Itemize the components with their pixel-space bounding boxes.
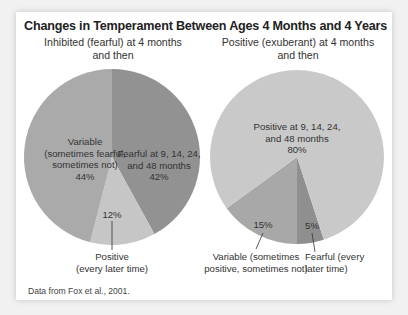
right-positive-label: Positive at 9, 14, 24, and 48 months 80% [247, 121, 347, 156]
right-variable-pct: 15% [248, 219, 278, 231]
right-variable-line2: positive, sometimes not) [196, 263, 316, 275]
right-variable-label: Variable (sometimes positive, sometimes … [196, 251, 316, 274]
source-note: Data from Fox et al., 2001. [28, 286, 130, 296]
left-fearful-label: Fearful at 9, 14, 24, and 48 months 42% [114, 148, 204, 183]
left-positive-pct: 12% [92, 209, 132, 221]
right-pie [210, 70, 384, 244]
left-fearful-line1: Fearful at 9, 14, 24, [114, 148, 204, 160]
right-fearful-pct: 5% [300, 220, 324, 232]
left-fearful-line2: and 48 months [114, 160, 204, 172]
right-fearful-line1: Fearful (every [305, 251, 364, 263]
left-variable-line1: Variable [40, 136, 130, 148]
right-positive-line1: Positive at 9, 14, 24, [247, 121, 347, 133]
right-fearful-line2: later time) [305, 263, 364, 275]
left-positive-line1: Positive [62, 251, 162, 263]
right-positive-line2: and 48 months [247, 133, 347, 145]
right-variable-line1: Variable (sometimes [196, 251, 316, 263]
right-positive-pct: 80% [247, 144, 347, 156]
left-positive-line2: (every later time) [62, 263, 162, 275]
right-fearful-label: Fearful (every later time) [305, 251, 364, 274]
left-positive-label: Positive (every later time) [62, 251, 162, 274]
left-fearful-pct: 42% [114, 171, 204, 183]
